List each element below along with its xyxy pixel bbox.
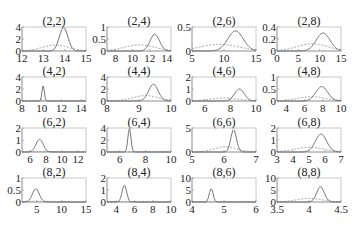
subplot-panel: (6,4)0246810: [101, 115, 178, 165]
x-tick-label: 10: [251, 102, 263, 114]
axes-frame: [107, 128, 171, 152]
y-tick-label: 0: [16, 196, 22, 208]
x-tick-label: 12: [56, 102, 67, 114]
y-tick-label: 4: [101, 122, 107, 134]
y-tick-label: 0: [271, 95, 277, 107]
dashed-curve: [107, 45, 171, 50]
x-tick-label: 4.5: [334, 203, 348, 215]
x-tick-label: 7: [338, 153, 344, 165]
x-tick-label: 12: [17, 52, 28, 64]
subplot-panel: (8,6)0510456: [180, 165, 259, 215]
solid-curve: [22, 86, 86, 101]
x-tick-label: 10: [219, 52, 231, 64]
x-tick-label: 15: [336, 52, 348, 64]
x-tick-label: 4: [113, 203, 119, 215]
solid-curve: [107, 84, 171, 101]
axes-frame: [22, 77, 86, 101]
x-tick-label: 6: [27, 153, 33, 165]
y-tick-label: 5: [271, 184, 277, 196]
y-tick-label: 0: [101, 196, 107, 208]
x-tick-label: 10: [166, 203, 178, 215]
y-tick-label: 0.2: [262, 33, 276, 45]
y-tick-label: 0: [16, 146, 22, 158]
subplot-title: (6,8): [298, 115, 321, 129]
x-tick-label: 6: [202, 102, 208, 114]
solid-curve: [22, 139, 86, 152]
x-tick-label: 10: [57, 153, 69, 165]
x-tick-label: 12: [73, 153, 84, 165]
subplot-title: (4,2): [43, 64, 66, 78]
y-tick-label: 4: [16, 71, 22, 83]
axes-frame: [192, 178, 256, 202]
x-tick-label: 5: [296, 52, 302, 64]
y-tick-label: 2: [101, 83, 107, 95]
y-tick-label: 4: [101, 71, 107, 83]
subplot-panel: (6,6)05567: [186, 115, 260, 165]
x-tick-label: 10: [314, 52, 326, 64]
x-tick-label: 0: [274, 52, 280, 64]
x-tick-label: 10: [166, 102, 178, 114]
x-tick-label: 10: [127, 52, 139, 64]
subplot-title: (6,4): [128, 115, 151, 129]
subplot-panel: (8,2)00.5151015: [7, 165, 92, 215]
y-tick-label: 2: [101, 172, 107, 184]
subplot-title: (8,2): [43, 165, 66, 179]
y-tick-label: 1: [271, 71, 277, 83]
subplot-title: (8,8): [298, 165, 321, 179]
y-tick-label: 0.4: [262, 21, 276, 33]
axes-frame: [107, 27, 171, 51]
y-tick-label: 0: [101, 45, 107, 57]
x-tick-label: 6: [117, 153, 123, 165]
axes-frame: [22, 27, 86, 51]
solid-curve: [192, 89, 256, 101]
x-tick-label: 6: [322, 153, 328, 165]
x-tick-label: 8: [150, 203, 156, 215]
axes-frame: [22, 128, 86, 152]
subplot-title: (8,6): [213, 165, 236, 179]
x-tick-label: 14: [59, 52, 71, 64]
subplot-panel: (6,2)012681012: [16, 115, 87, 165]
solid-curve: [277, 87, 341, 101]
subplot-panel: (4,4)0248910: [101, 64, 178, 114]
axes-frame: [22, 178, 86, 202]
x-tick-label: 5: [306, 153, 312, 165]
x-tick-label: 8: [43, 153, 49, 165]
y-tick-label: 0: [101, 146, 107, 158]
solid-curve: [192, 130, 256, 152]
y-tick-label: 5: [186, 122, 192, 134]
x-tick-label: 8: [143, 153, 149, 165]
subplot-panel: (4,8)00.5146810: [262, 64, 347, 114]
dashed-curve: [277, 44, 341, 51]
y-tick-label: 1: [101, 184, 107, 196]
x-tick-label: 4: [290, 153, 296, 165]
y-tick-label: 0.5: [92, 33, 106, 45]
solid-curve: [107, 129, 171, 152]
x-tick-label: 5: [189, 52, 195, 64]
subplot-panel: (2,6)00.551015: [177, 14, 262, 64]
x-tick-label: 8: [320, 102, 326, 114]
y-tick-label: 4: [16, 21, 22, 33]
y-tick-label: 2: [16, 83, 22, 95]
y-tick-label: 1: [16, 172, 22, 184]
solid-curve: [277, 187, 341, 202]
subplot-title: (8,4): [128, 165, 151, 179]
y-tick-label: 2: [16, 122, 22, 134]
y-tick-label: 0.5: [177, 21, 191, 33]
y-tick-label: 10: [265, 172, 277, 184]
y-tick-label: 2: [101, 134, 107, 146]
y-tick-label: 1: [271, 134, 277, 146]
solid-curve: [277, 33, 341, 51]
x-tick-label: 14: [76, 102, 88, 114]
x-tick-label: 7: [253, 153, 259, 165]
x-tick-label: 4: [283, 102, 289, 114]
subplot-panel: (8,4)01246810: [101, 165, 178, 215]
x-tick-label: 6: [132, 203, 138, 215]
x-tick-label: 6: [253, 203, 259, 215]
y-tick-label: 1: [186, 83, 192, 95]
x-tick-label: 10: [36, 102, 48, 114]
x-tick-label: 8: [113, 52, 119, 64]
x-tick-label: 4: [306, 203, 312, 215]
x-tick-label: 5: [189, 153, 195, 165]
subplot-panel: (2,8)00.20.4051015: [262, 14, 347, 64]
solid-curve: [22, 28, 86, 51]
